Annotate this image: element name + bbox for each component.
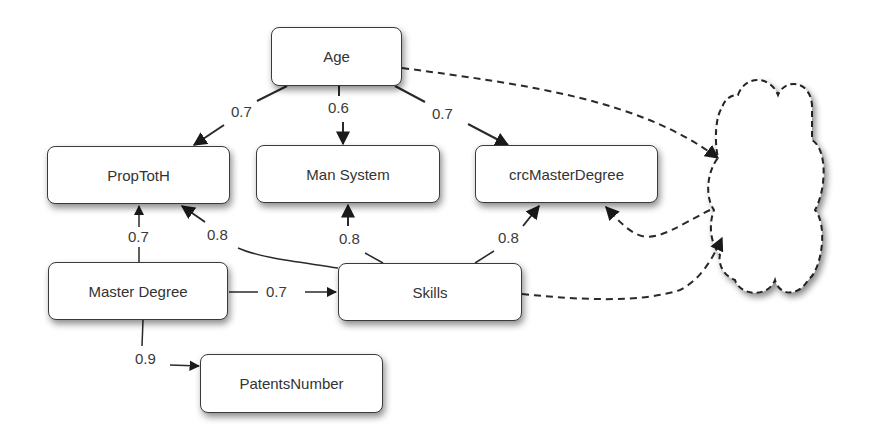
edge-label-age-crc: 0.7 [430,106,455,122]
node-age-label: Age [323,48,350,65]
edge-masterdegree-patents-arrow [170,365,199,366]
node-skills: Skills [338,263,522,321]
node-master-degree-label: Master Degree [88,283,187,300]
edge-label-skills-mansystem: 0.8 [337,231,362,247]
edge-label-age-mansystem: 0.6 [326,100,351,116]
node-patents-number: PatentsNumber [200,354,383,413]
node-age: Age [271,27,402,86]
edge-label-masterdegree-skills: 0.7 [264,284,289,300]
edge-label-masterdegree-patents: 0.9 [133,351,158,367]
latent-cloud [708,80,823,293]
diagram-canvas [0,0,869,448]
node-patents-number-label: PatentsNumber [239,375,343,392]
node-man-system: Man System [256,145,440,203]
edge-age-proptoth [257,86,287,101]
edge-skills-proptoth-arrow [182,206,205,222]
node-proptoth-label: PropTotH [107,167,170,184]
edge-cloud-crc [606,207,710,237]
edge-age-crc [395,86,425,102]
edge-skills-mansystem [365,253,383,263]
node-crc-master-degree-label: crcMasterDegree [509,166,624,183]
edge-masterdegree-patents [142,320,143,346]
edge-skills-crc-arrow [523,206,539,226]
edge-skills-cloud [522,238,722,299]
edge-skills-crc [475,251,494,263]
edge-label-masterdegree-proptoth: 0.7 [126,229,151,245]
edge-age-proptoth-arrow [194,125,224,145]
node-master-degree: Master Degree [48,262,228,320]
node-proptoth: PropTotH [47,146,230,204]
edge-age-crc-arrow [468,124,508,145]
node-skills-label: Skills [412,284,447,301]
edge-skills-proptoth [238,248,338,268]
edge-label-skills-proptoth: 0.8 [205,227,230,243]
node-crc-master-degree: crcMasterDegree [475,145,658,203]
node-man-system-label: Man System [306,166,389,183]
edge-label-age-proptoth: 0.7 [229,104,254,120]
edge-label-skills-crc: 0.8 [496,230,521,246]
